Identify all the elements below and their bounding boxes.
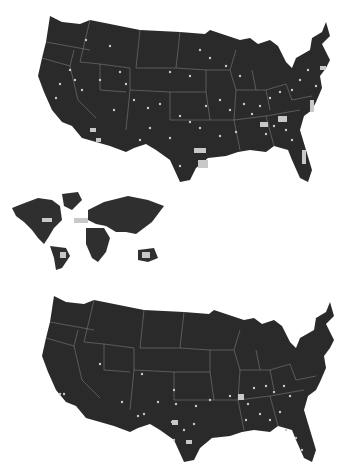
greenland	[62, 192, 82, 210]
world-map-inset	[8, 192, 168, 270]
us-map-sparse-markers	[34, 290, 334, 470]
us-map-dense-markers	[30, 10, 330, 190]
africa	[86, 228, 110, 262]
us-landmass	[42, 296, 334, 462]
us-landmass	[38, 16, 330, 182]
north-america	[12, 198, 62, 244]
continents	[12, 192, 164, 270]
